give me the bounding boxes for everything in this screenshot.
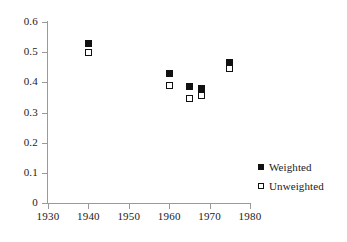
y-tick-label: 0.3: [0, 107, 38, 118]
x-axis-line: [47, 203, 251, 204]
data-point-weighted: [186, 83, 193, 90]
data-point-weighted: [166, 70, 173, 77]
y-tick-label: 0: [0, 197, 38, 208]
data-point-weighted: [198, 85, 205, 92]
y-tick-label: 0.5: [0, 46, 38, 57]
y-tick: [42, 113, 47, 114]
y-tick-label: 0.1: [0, 167, 38, 178]
x-tick: [129, 204, 130, 209]
chart-legend: Weighted Unweighted: [258, 161, 324, 192]
legend-item-unweighted: Unweighted: [258, 180, 324, 192]
y-tick: [42, 22, 47, 23]
x-tick: [210, 204, 211, 209]
plot-area: [48, 22, 250, 203]
data-point-unweighted: [226, 65, 233, 72]
data-point-unweighted: [166, 82, 173, 89]
scatter-chart: 00.10.20.30.40.50.6 19301940195019601970…: [0, 0, 347, 242]
y-tick: [42, 52, 47, 53]
y-tick: [42, 82, 47, 83]
y-tick: [42, 173, 47, 174]
y-tick: [42, 203, 47, 204]
x-tick-label: 1940: [65, 211, 111, 222]
data-point-weighted: [85, 40, 92, 47]
x-tick: [88, 204, 89, 209]
y-tick-label: 0.6: [0, 16, 38, 27]
x-tick-label: 1950: [106, 211, 152, 222]
x-tick-label: 1980: [227, 211, 273, 222]
x-tick-label: 1970: [187, 211, 233, 222]
legend-label: Weighted: [269, 161, 312, 173]
y-tick-label: 0.2: [0, 137, 38, 148]
y-tick-label: 0.4: [0, 76, 38, 87]
x-tick: [48, 204, 49, 209]
open-square-icon: [258, 183, 264, 189]
x-tick-label: 1930: [25, 211, 71, 222]
x-tick-label: 1960: [146, 211, 192, 222]
x-tick: [250, 204, 251, 209]
filled-square-icon: [258, 164, 264, 170]
legend-label: Unweighted: [269, 180, 324, 192]
data-point-unweighted: [198, 92, 205, 99]
x-tick: [169, 204, 170, 209]
data-point-unweighted: [186, 95, 193, 102]
y-tick: [42, 143, 47, 144]
data-point-unweighted: [85, 49, 92, 56]
legend-item-weighted: Weighted: [258, 161, 324, 173]
